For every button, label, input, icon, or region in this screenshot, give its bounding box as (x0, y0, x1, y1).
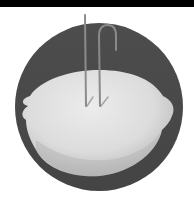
straight-electrode (85, 15, 86, 106)
lemon-battery-photo (0, 0, 194, 203)
